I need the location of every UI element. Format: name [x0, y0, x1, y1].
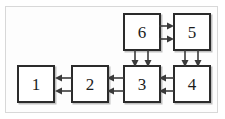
node-6[interactable]: 6 [123, 13, 161, 51]
connection-6-to-5 [159, 21, 174, 45]
node-5-label: 5 [188, 24, 197, 41]
diagram-frame: 1 2 3 4 5 6 [5, 6, 218, 113]
node-4-label: 4 [188, 76, 197, 93]
node-1-label: 1 [32, 76, 41, 93]
node-5[interactable]: 5 [173, 13, 211, 51]
connection-3-to-2 [107, 73, 124, 97]
node-3[interactable]: 3 [123, 65, 161, 103]
diagram-canvas: 1 2 3 4 5 6 [0, 0, 225, 119]
connection-2-to-1 [55, 73, 72, 97]
node-1[interactable]: 1 [17, 65, 55, 103]
node-3-label: 3 [138, 76, 147, 93]
connection-4-to-3 [159, 73, 174, 97]
node-2-label: 2 [86, 76, 95, 93]
node-2[interactable]: 2 [71, 65, 109, 103]
node-6-label: 6 [138, 24, 147, 41]
connection-5-to-4 [180, 50, 204, 67]
node-4[interactable]: 4 [173, 65, 211, 103]
connection-6-to-3 [130, 50, 154, 67]
